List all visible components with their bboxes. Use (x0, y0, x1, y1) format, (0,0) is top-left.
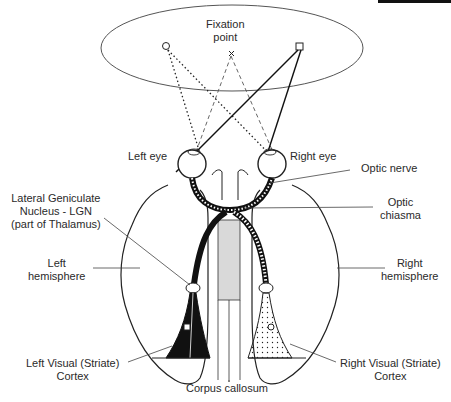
right-target-square-icon (296, 43, 303, 50)
fixation-rays (196, 56, 273, 152)
left-cortex-square-icon (184, 324, 190, 330)
left-target-rays (168, 50, 280, 165)
left-eye-label: Left eye (128, 150, 167, 163)
right-cortex-line2: Cortex (340, 370, 441, 383)
optic-chiasma-line1: Optic (380, 196, 421, 209)
right-lgn (259, 283, 273, 293)
right-eye (258, 150, 286, 178)
left-hemisphere-line1: Left (28, 257, 85, 270)
left-target-circle-icon (163, 43, 170, 50)
right-cortex-line1: Right Visual (Striate) (340, 357, 441, 370)
left-cortex-line2: Cortex (26, 370, 119, 383)
right-hemisphere-line2: hemisphere (381, 270, 438, 283)
fixation-line2: point (206, 31, 245, 44)
right-eye-label: Right eye (290, 150, 336, 163)
left-lgn (186, 283, 200, 293)
right-hemisphere-label: Right hemisphere (381, 257, 438, 283)
optic-chiasma-line2: chiasma (380, 209, 421, 222)
optic-chiasma-label: Optic chiasma (380, 196, 421, 222)
lgn-line1: Lateral Geniculate (11, 192, 101, 205)
left-eye (178, 150, 206, 178)
fixation-x-icon (229, 51, 234, 56)
left-hemisphere-line2: hemisphere (28, 270, 85, 283)
right-hemisphere-line1: Right (381, 257, 438, 270)
corpus-callosum-region (218, 220, 240, 300)
fixation-point-label: Fixation point (206, 18, 245, 44)
left-visual-cortex-label: Left Visual (Striate) Cortex (26, 357, 119, 383)
corpus-callosum-label: Corpus callosum (186, 382, 268, 395)
right-cortex-circle-icon (268, 324, 274, 330)
left-hemisphere-label: Left hemisphere (28, 257, 85, 283)
left-cortex-line1: Left Visual (Striate) (26, 357, 119, 370)
lgn-line2: Nucleus - LGN (11, 205, 101, 218)
right-visual-cortex-label: Right Visual (Striate) Cortex (340, 357, 441, 383)
optic-nerve-label: Optic nerve (361, 162, 417, 175)
optic-nerve-tract (192, 178, 272, 210)
lgn-label: Lateral Geniculate Nucleus - LGN (part o… (11, 192, 101, 231)
lgn-line3: (part of Thalamus) (11, 218, 101, 231)
fixation-line1: Fixation (206, 18, 245, 31)
